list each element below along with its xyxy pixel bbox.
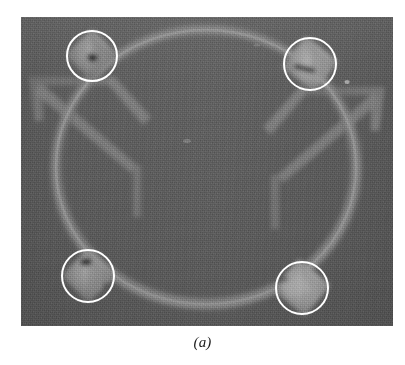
figure-caption: (a) xyxy=(0,334,405,351)
figure-panel-a: (a) xyxy=(0,0,405,365)
annotation-circle-bottom-right xyxy=(276,262,328,314)
micrograph-image xyxy=(21,17,393,326)
annotation-circle-top-left xyxy=(67,31,117,81)
annotation-circle-bottom-left xyxy=(62,250,114,302)
annotation-overlay xyxy=(21,17,393,326)
annotation-circle-top-right xyxy=(284,38,336,90)
